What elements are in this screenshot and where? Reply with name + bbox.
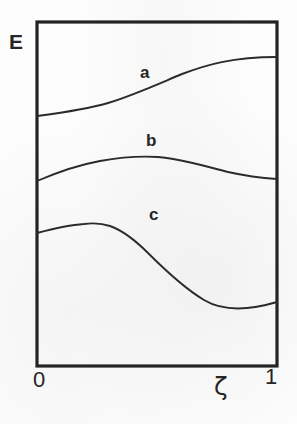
x-tick-label-1: 1 [265,366,277,388]
figure-panel: E ζ 0 1 a b c [0,0,297,424]
curve-label-c: c [149,206,158,223]
x-tick-label-0: 0 [33,369,45,391]
curve-label-a: a [140,64,149,81]
plot-frame-box [37,22,277,366]
curve-c [37,223,277,308]
x-axis-symbol-label: ζ [214,374,228,399]
curve-a [37,57,277,116]
curve-b [37,157,277,181]
curve-label-b: b [146,132,156,149]
y-axis-label: E [9,31,23,52]
